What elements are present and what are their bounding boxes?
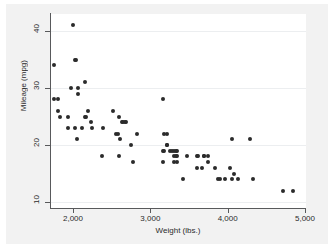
y-axis-tick-label: 30: [33, 81, 41, 90]
scatter-point: [131, 160, 135, 164]
scatter-point: [118, 137, 122, 141]
scatter-point: [135, 132, 139, 136]
scatter-point: [162, 149, 166, 153]
scatter-point: [185, 154, 189, 158]
scatter-point: [86, 109, 90, 113]
scatter-point: [76, 86, 80, 90]
chart-screenshot: Mileage (mpg) Weight (lbs.) 102030402,00…: [0, 0, 334, 251]
gridline-y: [50, 88, 306, 89]
x-axis-tick-label: 3,000: [140, 214, 160, 223]
scatter-point: [213, 166, 217, 170]
scatter-point: [175, 149, 179, 153]
y-axis-tick-label: 40: [33, 24, 41, 33]
scatter-point: [100, 154, 104, 158]
scatter-point: [175, 160, 179, 164]
x-axis-tick-label: 5,000: [295, 214, 315, 223]
scatter-point: [206, 154, 210, 158]
scatter-point: [195, 166, 199, 170]
y-axis-tick-label: 10: [33, 195, 41, 204]
scatter-point: [117, 115, 121, 119]
y-axis-title: Mileage (mpg): [20, 60, 28, 111]
scatter-point: [129, 143, 133, 147]
scatter-point: [165, 132, 169, 136]
scatter-point: [251, 177, 255, 181]
y-axis-tick: [45, 88, 50, 89]
gridline-y: [50, 31, 306, 32]
scatter-point: [281, 189, 285, 193]
y-axis-tick-label: 20: [33, 138, 41, 147]
scatter-point: [236, 177, 240, 181]
scatter-point: [75, 137, 79, 141]
y-axis-tick: [45, 202, 50, 203]
scatter-point: [230, 177, 234, 181]
scatter-point: [232, 172, 236, 176]
y-axis-tick: [45, 145, 50, 146]
x-axis-tick-label: 2,000: [63, 214, 83, 223]
scatter-point: [66, 115, 70, 119]
x-axis-tick: [305, 209, 306, 213]
scatter-point: [230, 137, 234, 141]
x-axis-tick: [73, 209, 74, 213]
scatter-point: [71, 23, 75, 27]
scatter-point: [117, 154, 121, 158]
scatter-point: [101, 126, 105, 130]
scatter-point: [83, 80, 87, 84]
scatter-point: [89, 120, 93, 124]
x-axis-title: Weight (lbs.): [50, 226, 306, 235]
x-axis-tick: [228, 209, 229, 213]
scatter-point: [52, 63, 56, 67]
scatter-point: [116, 132, 120, 136]
scatter-point: [223, 177, 227, 181]
scatter-point: [90, 126, 94, 130]
scatter-point: [161, 97, 165, 101]
y-axis-tick: [45, 31, 50, 32]
scatter-point: [124, 120, 128, 124]
scatter-point: [74, 58, 78, 62]
scatter-point: [73, 126, 77, 130]
scatter-point: [84, 115, 88, 119]
scatter-point: [161, 160, 165, 164]
scatter-point: [291, 189, 295, 193]
scatter-point: [80, 126, 84, 130]
scatter-point: [76, 92, 80, 96]
scatter-point: [218, 177, 222, 181]
scatter-point: [111, 109, 115, 113]
x-axis-tick-label: 4,000: [218, 214, 238, 223]
scatter-plot-area: [50, 14, 306, 209]
scatter-point: [58, 115, 62, 119]
x-axis-line: [50, 208, 306, 209]
scatter-point: [66, 126, 70, 130]
scatter-point: [228, 166, 232, 170]
x-axis-tick: [150, 209, 151, 213]
scatter-point: [248, 137, 252, 141]
gridline-y: [50, 202, 306, 203]
scatter-point: [56, 97, 60, 101]
scatter-point: [196, 154, 200, 158]
gridline-y: [50, 145, 306, 146]
scatter-point: [181, 177, 185, 181]
scatter-point: [200, 166, 204, 170]
scatter-point: [206, 160, 210, 164]
y-axis-line: [50, 13, 51, 209]
scatter-point: [165, 143, 169, 147]
scatter-point: [175, 154, 179, 158]
scatter-point: [69, 86, 73, 90]
scatter-point: [56, 109, 60, 113]
